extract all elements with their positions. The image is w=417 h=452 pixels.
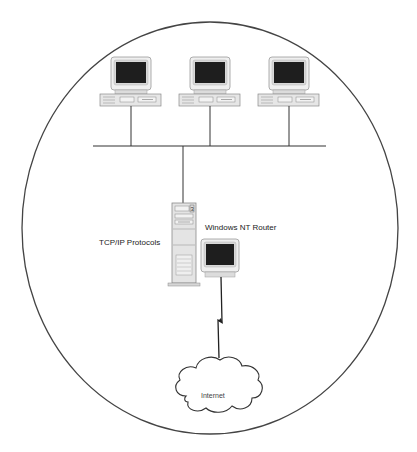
server-tower-icon bbox=[168, 203, 200, 286]
router-monitor-icon bbox=[201, 239, 239, 277]
internet-label: Internet bbox=[201, 392, 225, 399]
workstation-1-icon bbox=[100, 57, 161, 106]
tcpip-protocols-label: TCP/IP Protocols bbox=[99, 239, 160, 247]
internet-cloud-icon bbox=[176, 357, 263, 412]
workstation-2-icon bbox=[179, 57, 240, 106]
windows-nt-router-label: Windows NT Router bbox=[205, 224, 276, 232]
lightning-link-icon bbox=[218, 277, 222, 358]
workstation-3-icon bbox=[258, 57, 319, 106]
